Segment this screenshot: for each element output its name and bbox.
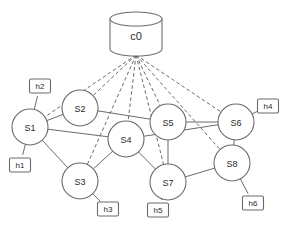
switch-node-s2[interactable]: S2 [62, 90, 98, 126]
data-link-s1-s3 [42, 140, 68, 168]
host-node-h5[interactable]: h5 [148, 203, 169, 217]
data-link-s6-s8 [234, 140, 235, 145]
host-node-h4[interactable]: h4 [258, 99, 279, 113]
controller-label: c0 [130, 30, 142, 42]
controller-node[interactable]: c0 [110, 12, 162, 56]
topology-diagram: c0 h1h2h3h4h5h6 S1S2S3S4S5S6S7S8 [0, 0, 283, 227]
switch-label-s8: S8 [226, 159, 237, 169]
host-node-h2[interactable]: h2 [30, 79, 51, 93]
topology-canvas: c0 h1h2h3h4h5h6 S1S2S3S4S5S6S7S8 [0, 0, 283, 227]
data-link-s4-s7 [139, 152, 156, 169]
data-link-s7-s8 [185, 168, 214, 177]
host-label-h3: h3 [104, 205, 113, 214]
data-link-s1-s2 [47, 114, 63, 120]
switch-node-s4[interactable]: S4 [108, 121, 144, 157]
data-link-s1-s4 [48, 129, 108, 137]
host-link-h3-s3 [93, 194, 101, 202]
switch-label-s7: S7 [162, 178, 173, 188]
switch-node-s1[interactable]: S1 [12, 109, 48, 145]
switch-label-s2: S2 [74, 104, 85, 114]
cylinder-icon-top [110, 12, 162, 26]
switch-node-s3[interactable]: S3 [62, 163, 98, 199]
switch-label-s6: S6 [230, 118, 241, 128]
data-link-s2-s5 [98, 111, 150, 119]
switch-node-s7[interactable]: S7 [150, 164, 186, 200]
host-label-h4: h4 [264, 102, 273, 111]
host-label-h1: h1 [16, 161, 25, 170]
host-node-h1[interactable]: h1 [10, 158, 31, 172]
switch-node-s8[interactable]: S8 [214, 145, 250, 181]
switch-node-s5[interactable]: S5 [150, 104, 186, 140]
switch-label-s1: S1 [24, 123, 35, 133]
data-link-s3-s4 [93, 151, 112, 169]
host-label-h6: h6 [249, 199, 258, 208]
control-link-c0-s2 [93, 55, 136, 96]
host-label-h5: h5 [154, 206, 163, 215]
switch-label-s5: S5 [162, 118, 173, 128]
switches-layer: S1S2S3S4S5S6S7S8 [12, 90, 254, 200]
control-link-c0-s4 [128, 55, 136, 121]
host-link-h1-s1 [23, 144, 26, 154]
switch-node-s6[interactable]: S6 [218, 104, 254, 140]
host-node-h3[interactable]: h3 [98, 202, 119, 216]
host-link-h2-s1 [34, 96, 37, 109]
switch-label-s4: S4 [120, 135, 131, 145]
host-link-h6-s8 [240, 179, 248, 194]
switch-label-s3: S3 [74, 177, 85, 187]
host-label-h2: h2 [36, 82, 45, 91]
host-node-h6[interactable]: h6 [243, 196, 264, 210]
